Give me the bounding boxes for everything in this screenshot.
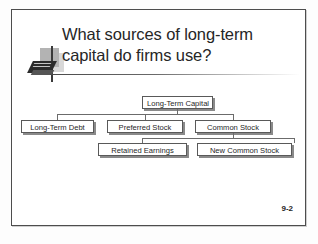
title-divider [50,74,300,75]
connector-level2-bus [142,138,294,139]
slide-canvas: What sources of long-term capital do fir… [0,0,318,244]
node-common-stock[interactable]: Common Stock [195,120,271,133]
node-long-term-capital[interactable]: Long-Term Capital [142,96,213,109]
page-title: What sources of long-term capital do fir… [62,24,294,66]
logo-stripe-2 [33,66,50,67]
logo-stripe-1 [34,63,51,64]
node-long-term-debt[interactable]: Long-Term Debt [21,120,94,133]
slide-frame: What sources of long-term capital do fir… [11,9,306,226]
connector-capital-down [177,109,178,114]
title-block: What sources of long-term capital do fir… [62,24,294,66]
connector-to-new-common-stock [294,138,295,143]
node-preferred-stock[interactable]: Preferred Stock [107,120,183,133]
node-new-common-stock[interactable]: New Common Stock [197,143,292,156]
connector-common-stock-down [233,133,234,138]
page-number: 9-2 [281,204,293,213]
connector-level1-bus [57,114,233,115]
node-retained-earnings[interactable]: Retained Earnings [98,143,187,156]
